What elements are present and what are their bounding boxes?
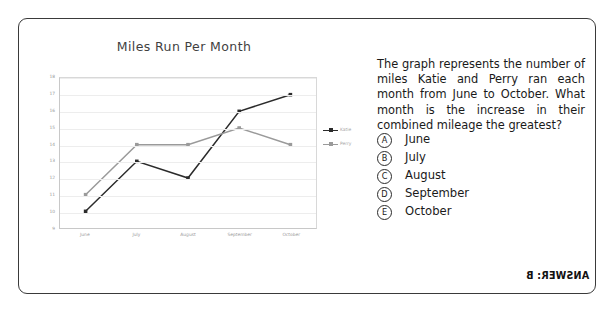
y-tick-label: 13	[49, 159, 55, 163]
x-axis-tick-labels: JuneJulyAugustSeptemberOctober	[59, 233, 317, 247]
choice-bubble-icon[interactable]: A	[377, 133, 392, 148]
choice-label: June	[405, 134, 430, 146]
legend-label: Perry	[340, 142, 351, 146]
y-tick-label: 10	[49, 210, 55, 214]
question-text: The graph represents the number of miles…	[377, 57, 585, 133]
y-tick-label: 9	[52, 227, 55, 231]
choice-bubble-icon[interactable]: C	[377, 169, 392, 184]
y-tick-label: 14	[49, 142, 55, 146]
choice-label: July	[405, 152, 426, 164]
y-tick-label: 11	[49, 193, 55, 197]
choice-label: October	[405, 206, 451, 218]
answer-choice-c[interactable]: CAugust	[377, 167, 577, 185]
answer-choice-a[interactable]: AJune	[377, 131, 577, 149]
gridline	[60, 146, 316, 147]
choice-bubble-icon[interactable]: D	[377, 187, 392, 202]
x-tick-label: July	[132, 233, 140, 237]
chart-plot-wrapper: 1817161514131211109 JuneJulyAugustSeptem…	[37, 63, 349, 259]
gridline	[60, 112, 316, 113]
gridline	[60, 179, 316, 180]
answer-choice-b[interactable]: BJuly	[377, 149, 577, 167]
gridline	[60, 129, 316, 130]
chart-title: Miles Run Per Month	[19, 39, 349, 54]
x-tick-label: August	[180, 233, 195, 237]
answer-key-text: ANSWER: B	[526, 270, 589, 281]
x-tick-label: October	[282, 233, 300, 237]
x-tick-label: June	[80, 233, 90, 237]
gridline	[60, 196, 316, 197]
question-panel: The graph represents the number of miles…	[369, 19, 597, 295]
choice-label: August	[405, 170, 446, 182]
answer-choice-d[interactable]: DSeptember	[377, 185, 577, 203]
gridline	[60, 78, 316, 79]
answer-choice-e[interactable]: EOctober	[377, 203, 577, 221]
chart-series-svg	[60, 78, 316, 228]
series-line-perry	[86, 128, 291, 195]
gridline	[60, 95, 316, 96]
answer-choice-list: AJuneBJulyCAugustDSeptemberEOctober	[377, 131, 577, 221]
y-tick-label: 15	[49, 125, 55, 129]
y-tick-label: 12	[49, 176, 55, 180]
chart-panel: Miles Run Per Month 1817161514131211109 …	[19, 19, 364, 295]
gridline	[60, 213, 316, 214]
y-tick-label: 18	[49, 75, 55, 79]
worksheet-card: Miles Run Per Month 1817161514131211109 …	[18, 18, 596, 294]
legend-label: Katie	[340, 128, 351, 132]
x-tick-label: September	[227, 233, 251, 237]
legend-swatch-icon	[323, 141, 338, 148]
y-tick-label: 17	[49, 92, 55, 96]
choice-bubble-icon[interactable]: E	[377, 205, 392, 220]
chart-plot-area	[59, 77, 317, 229]
gridline	[60, 162, 316, 163]
choice-bubble-icon[interactable]: B	[377, 151, 392, 166]
choice-label: September	[405, 188, 469, 200]
legend-swatch-icon	[323, 127, 338, 134]
y-tick-label: 16	[49, 109, 55, 113]
y-axis-tick-labels: 1817161514131211109	[37, 77, 57, 229]
